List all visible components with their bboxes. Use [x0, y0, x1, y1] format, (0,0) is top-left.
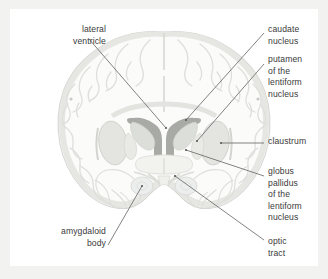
label-claustrum: claustrum — [268, 136, 328, 148]
label-line: amygdaloid — [16, 226, 106, 238]
label-line: of the — [268, 189, 328, 201]
label-line: lentiform — [268, 77, 328, 89]
label-line: of the — [268, 66, 328, 78]
leader-claustrum-endpoint — [220, 142, 222, 144]
tissue-speck — [69, 97, 72, 100]
leader-optic-tract-endpoint — [174, 175, 176, 177]
thalamus-structure — [136, 155, 193, 174]
label-line: tract — [268, 248, 328, 260]
leader-putamen-endpoint — [196, 140, 198, 142]
label-line: claustrum — [268, 136, 328, 148]
label-line: nucleus — [268, 89, 328, 101]
label-globus-pallidus-of-the-lentiform-nucleus: globuspallidusof thelentiformnucleus — [268, 166, 328, 224]
label-line: optic — [268, 236, 328, 248]
label-optic-tract: optictract — [268, 236, 328, 259]
label-caudate-nucleus: caudatenucleus — [268, 24, 328, 47]
anatomy-figure: lateralventriclecaudatenucleusputamenof … — [0, 0, 328, 279]
leader-caudate-nucleus-endpoint — [185, 119, 187, 121]
leader-lateral-ventricle-endpoint — [165, 127, 167, 129]
label-line: lateral — [22, 24, 106, 36]
leader-globus-pallidus-endpoint — [185, 149, 187, 151]
label-line: lentiform — [268, 201, 328, 213]
label-putamen-of-the-lentiform-nucleus: putamenof thelentiformnucleus — [268, 54, 328, 100]
label-line: ventricle — [22, 36, 106, 48]
label-line: globus — [268, 166, 328, 178]
label-amygdaloid-body: amygdaloidbody — [16, 226, 106, 249]
label-line: body — [16, 238, 106, 250]
tissue-speck — [256, 97, 259, 100]
label-lateral-ventricle: lateralventricle — [22, 24, 106, 47]
label-line: putamen — [268, 54, 328, 66]
label-line: nucleus — [268, 36, 328, 48]
label-line: caudate — [268, 24, 328, 36]
label-line: pallidus — [268, 178, 328, 190]
leader-amygdaloid-body-endpoint — [141, 185, 143, 187]
label-line: nucleus — [268, 212, 328, 224]
